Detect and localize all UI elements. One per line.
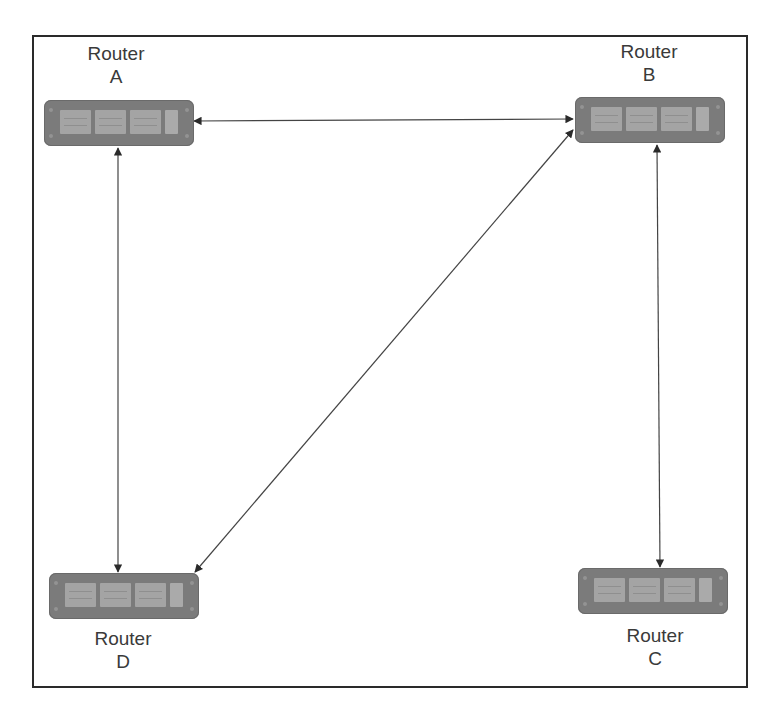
router-c-label-line2: C	[595, 647, 715, 670]
router-d-label-line1: Router	[63, 627, 183, 650]
router-a-icon[interactable]	[44, 100, 194, 146]
router-a-label-line2: A	[56, 65, 176, 88]
router-c-label: Router C	[595, 624, 715, 670]
router-b-label: Router B	[589, 40, 709, 86]
router-d-icon[interactable]	[49, 573, 199, 619]
router-d-label-line2: D	[63, 650, 183, 673]
router-b-label-line2: B	[589, 63, 709, 86]
router-c-label-line1: Router	[595, 624, 715, 647]
link-b-c	[657, 145, 660, 567]
router-b-icon[interactable]	[575, 97, 725, 143]
link-b-d	[195, 130, 573, 572]
link-a-b	[194, 119, 573, 121]
router-d-label: Router D	[63, 627, 183, 673]
router-a-label: Router A	[56, 42, 176, 88]
router-c-icon[interactable]	[578, 568, 728, 614]
router-b-label-line1: Router	[589, 40, 709, 63]
router-a-label-line1: Router	[56, 42, 176, 65]
